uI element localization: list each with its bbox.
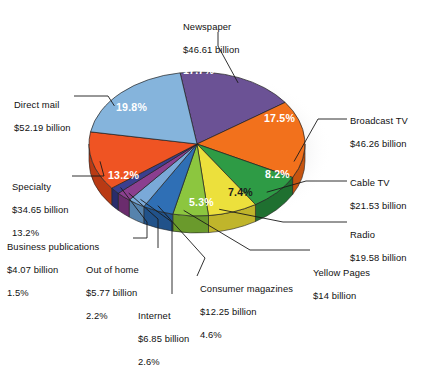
callout-cable-tv-amount: $21.53 billion	[350, 200, 407, 211]
pie-top-faces: Newspaper $46.61 billion 17.7%Broadcast …	[89, 72, 305, 216]
callout-direct-mail: Direct mail $52.19 billion	[14, 88, 71, 145]
callout-specialty-amount: $34.65 billion	[12, 204, 69, 215]
callout-business-publications-percent: 1.5%	[7, 287, 99, 298]
callout-yellow-pages: Yellow Pages $14 billion	[313, 256, 370, 313]
callout-newspaper: Newspaper $46.61 billion	[183, 10, 240, 67]
callout-radio-label: Radio	[350, 229, 407, 240]
slice-percent-broadcast-tv: 17.5%	[264, 112, 295, 124]
callout-business-publications-amount: $4.07 billion	[7, 264, 99, 275]
callout-yellow-pages-amount: $14 billion	[313, 290, 370, 301]
callout-specialty: Specialty $34.65 billion 13.2%	[12, 170, 69, 250]
slice-percent-cable-tv: 8.2%	[265, 168, 290, 180]
callout-broadcast-tv: Broadcast TV $46.26 billion	[350, 104, 408, 161]
callout-broadcast-tv-amount: $46.26 billion	[350, 138, 408, 149]
callout-specialty-percent: 13.2%	[12, 227, 69, 238]
callout-direct-mail-label: Direct mail	[14, 99, 71, 110]
callout-internet: Internet $6.85 billion 2.6%	[138, 299, 189, 369]
slice-percent-yellow-pages: 5.3%	[189, 196, 214, 208]
callout-internet-percent: 2.6%	[138, 356, 189, 367]
callout-specialty-label: Specialty	[12, 181, 69, 192]
slice-percent-specialty: 13.2%	[108, 169, 139, 181]
callout-consumer-magazines-label: Consumer magazines	[200, 283, 293, 294]
slice-percent-radio: 7.4%	[228, 186, 253, 198]
slice-percent-direct-mail: 19.8%	[116, 101, 147, 113]
callout-broadcast-tv-label: Broadcast TV	[350, 115, 408, 126]
callout-cable-tv: Cable TV $21.53 billion	[350, 166, 407, 223]
callout-direct-mail-amount: $52.19 billion	[14, 122, 71, 133]
callout-internet-label: Internet	[138, 310, 189, 321]
callout-consumer-magazines-amount: $12.25 billion	[200, 306, 293, 317]
callout-consumer-magazines: Consumer magazines $12.25 billion 4.6%	[200, 272, 293, 352]
pie-slice-side-yellow-pages	[173, 214, 209, 233]
callout-cable-tv-label: Cable TV	[350, 177, 407, 188]
callout-out-of-home-percent: 2.2%	[86, 310, 139, 321]
callout-internet-amount: $6.85 billion	[138, 333, 189, 344]
callout-newspaper-amount: $46.61 billion	[183, 44, 240, 55]
callout-yellow-pages-label: Yellow Pages	[313, 267, 370, 278]
callout-newspaper-label: Newspaper	[183, 21, 240, 32]
callout-consumer-magazines-percent: 4.6%	[200, 329, 293, 340]
